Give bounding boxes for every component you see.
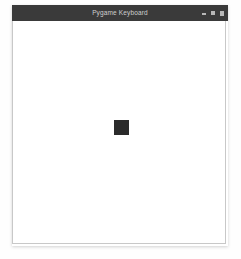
game-canvas[interactable] [13,21,225,243]
pygame-window: Pygame Keyboard [12,5,228,246]
maximize-icon[interactable] [211,11,215,15]
window-title-bar[interactable]: Pygame Keyboard [12,5,228,21]
minimize-icon[interactable] [202,13,206,15]
close-icon[interactable] [220,11,224,16]
window-client-area [12,21,226,244]
player-square-sprite [114,120,129,135]
window-controls-group [202,5,224,21]
window-title-text: Pygame Keyboard [92,5,148,21]
desktop-background: Pygame Keyboard [0,0,241,259]
